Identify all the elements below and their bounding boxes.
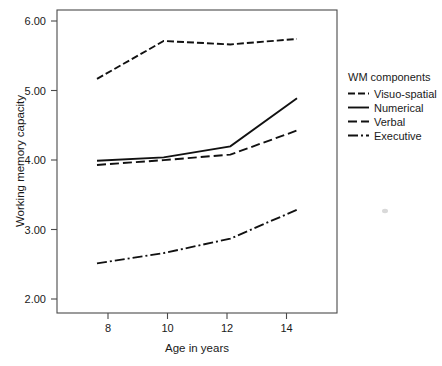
y-tick-label-6: 6.00 — [25, 15, 46, 27]
line-chart: 6.00 5.00 4.00 3.00 2.00 8 10 12 14 Age … — [0, 0, 442, 366]
x-axis-title: Age in years — [165, 342, 229, 354]
legend-item-executive[interactable]: Executive — [348, 130, 422, 142]
series-group — [97, 39, 297, 264]
legend-label-executive: Executive — [374, 130, 422, 142]
legend-item-numerical[interactable]: Numerical — [348, 102, 424, 114]
y-axis-title: Working memory capacity — [14, 95, 26, 227]
y-tick-label-4: 4.00 — [25, 154, 46, 166]
legend-title: WM components — [348, 71, 431, 83]
legend-item-visuo-spatial[interactable]: Visuo-spatial — [348, 88, 437, 100]
legend: WM components Visuo-spatial Numerical Ve… — [348, 71, 437, 142]
x-axis-ticks — [108, 313, 287, 319]
x-tick-label-12: 12 — [221, 322, 233, 334]
chart-page: 6.00 5.00 4.00 3.00 2.00 8 10 12 14 Age … — [0, 0, 442, 366]
legend-label-numerical: Numerical — [374, 102, 424, 114]
legend-label-visuo-spatial: Visuo-spatial — [374, 88, 437, 100]
y-tick-label-5: 5.00 — [25, 85, 46, 97]
series-line-visuo-spatial — [97, 39, 297, 79]
x-tick-label-8: 8 — [105, 322, 111, 334]
scan-artifact — [382, 209, 388, 213]
y-tick-label-2: 2.00 — [25, 293, 46, 305]
y-axis-ticks — [51, 21, 57, 299]
legend-item-verbal[interactable]: Verbal — [348, 116, 405, 128]
legend-label-verbal: Verbal — [374, 116, 405, 128]
x-tick-label-10: 10 — [161, 322, 173, 334]
series-line-numerical — [97, 98, 297, 161]
series-line-executive — [97, 210, 297, 264]
x-tick-label-14: 14 — [280, 322, 292, 334]
y-tick-label-3: 3.00 — [25, 224, 46, 236]
